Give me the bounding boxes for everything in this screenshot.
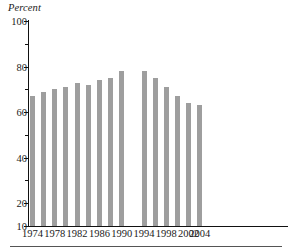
x-axis-tick-label: 2004 <box>189 228 210 239</box>
x-axis-tick-label: 1982 <box>67 228 88 239</box>
bar <box>52 89 57 226</box>
y-axis-tick-mark <box>24 21 29 22</box>
bar <box>86 85 91 226</box>
bar <box>175 96 180 226</box>
y-axis-line <box>28 20 29 227</box>
y-axis-tick-mark <box>25 135 29 136</box>
y-axis-tick-mark <box>24 112 29 113</box>
y-axis-tick-mark <box>25 180 29 181</box>
y-axis-tick-mark <box>24 203 29 204</box>
bar <box>186 103 191 226</box>
x-axis-tick-label: 1998 <box>156 228 177 239</box>
bar <box>108 78 113 226</box>
bar <box>41 92 46 226</box>
bar <box>30 96 35 226</box>
bar <box>142 71 147 226</box>
y-axis-tick-labels: 1008060402010 <box>0 0 27 251</box>
x-axis-tick-labels: 197419781982198619901994199820022004 <box>0 228 290 248</box>
y-axis-tick-mark <box>25 89 29 90</box>
bar-chart-figure: Percent 1008060402010 197419781982198619… <box>0 0 290 251</box>
bar <box>197 105 202 226</box>
x-axis-tick-label: 1986 <box>89 228 110 239</box>
y-axis-tick-mark <box>24 226 29 227</box>
bar <box>63 87 68 226</box>
plot-area <box>30 21 288 226</box>
x-axis-line <box>28 226 288 227</box>
y-axis-tick-mark <box>24 67 29 68</box>
bar <box>164 87 169 226</box>
bar <box>119 71 124 226</box>
x-axis-tick-label: 1990 <box>111 228 132 239</box>
bar <box>75 83 80 227</box>
y-axis-tick-mark <box>25 44 29 45</box>
x-axis-tick-label: 1994 <box>134 228 155 239</box>
footer-rule <box>10 246 282 247</box>
x-axis-tick-label: 1974 <box>22 228 43 239</box>
y-axis-tick-mark <box>24 158 29 159</box>
x-axis-tick-label: 1978 <box>44 228 65 239</box>
bar <box>97 80 102 226</box>
bar <box>153 78 158 226</box>
